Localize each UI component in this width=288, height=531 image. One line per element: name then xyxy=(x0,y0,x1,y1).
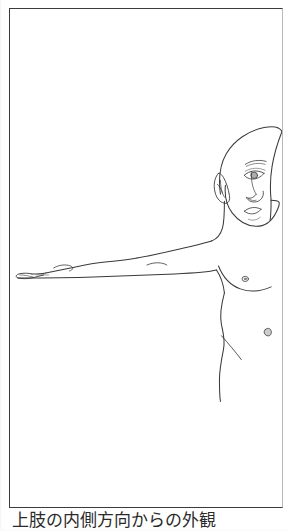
eye-iris xyxy=(251,172,258,178)
neck-back-path xyxy=(270,200,271,220)
upper-arm-top-contour-path xyxy=(137,241,211,258)
figure-frame xyxy=(9,8,283,508)
head-outline-path xyxy=(220,127,282,195)
mouth-upper-lip-path xyxy=(244,207,261,211)
wrist-notch-path xyxy=(32,273,46,274)
anatomy-line-drawing xyxy=(10,9,282,507)
hand-thumb-path xyxy=(20,275,33,277)
scan-edge-left xyxy=(0,0,2,531)
flank-contour-path xyxy=(219,293,224,402)
chin-crease-path xyxy=(248,217,260,220)
hip-crease-path xyxy=(221,336,241,360)
figure-page: 上肢の内側方向からの外観 xyxy=(0,0,288,531)
axilla-path xyxy=(216,270,224,293)
figure-caption: 上肢の内側方向からの外観 xyxy=(12,510,282,531)
neck-front-path xyxy=(212,201,225,241)
arm-underside-path xyxy=(18,270,217,278)
nipple-center xyxy=(244,278,246,280)
navel-marker xyxy=(264,328,271,336)
eyebrow-inner-path xyxy=(246,163,265,166)
head-back-path xyxy=(270,132,282,201)
ear-icon xyxy=(214,173,229,203)
elbow-crease-path xyxy=(147,263,167,265)
